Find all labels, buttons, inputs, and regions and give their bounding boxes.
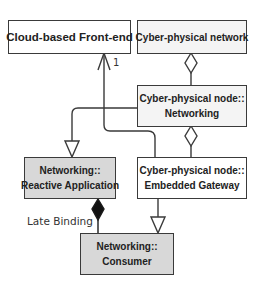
class-label: Cloud-based Front-end: [6, 30, 133, 45]
class-label-line2: Networking: [165, 106, 219, 121]
class-networking-consumer: Networking:: Consumer: [80, 233, 174, 275]
class-label-line1: Networking::: [96, 239, 157, 254]
generalization-gateway-consumer: [151, 199, 165, 233]
class-label-line1: Cyber-physical node::: [139, 163, 244, 178]
class-label-line1: Cyber-physical node::: [139, 91, 244, 106]
class-cyber-physical-network: Cyber-physical network: [137, 20, 247, 54]
class-cps-node-networking: Cyber-physical node:: Networking: [137, 85, 247, 127]
class-label-line1: Networking::: [39, 163, 100, 178]
class-networking-reactive-application: Networking:: Reactive Application: [24, 157, 116, 199]
class-cps-node-embedded-gateway: Cyber-physical node:: Embedded Gateway: [137, 157, 247, 199]
class-label-line2: Embedded Gateway: [144, 178, 239, 193]
generalization-networking-reactive: [65, 108, 137, 157]
composition-reactive-consumer: [92, 199, 104, 233]
class-label: Cyber-physical network: [136, 30, 249, 45]
aggregation-network-networking: [185, 53, 197, 85]
multiplicity-label: 1: [113, 57, 119, 68]
class-label-line2: Reactive Application: [21, 178, 119, 193]
class-label-line2: Consumer: [102, 254, 151, 269]
aggregation-networking-gateway: [185, 126, 197, 157]
uml-diagram: Cloud-based Front-end Cyber-physical net…: [0, 0, 262, 294]
late-binding-label: Late Binding: [27, 215, 93, 227]
class-cloud-frontend: Cloud-based Front-end: [8, 20, 131, 54]
